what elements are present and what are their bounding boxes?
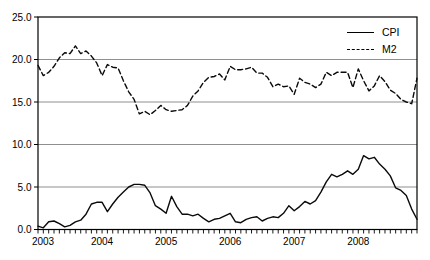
x-axis-label: 2005	[155, 236, 178, 247]
chart-legend: CPI M2	[347, 26, 404, 56]
m2-line	[38, 46, 417, 115]
x-axis-label: 2008	[347, 236, 370, 247]
cpi-line-sample-icon	[347, 32, 374, 33]
legend-m2-label: M2	[382, 43, 404, 56]
x-axis-label: 2007	[283, 236, 306, 247]
cpi-line	[38, 156, 417, 228]
y-axis-label: 10.0	[12, 139, 32, 150]
legend-item-m2: M2	[347, 43, 404, 56]
x-axis-label: 2003	[32, 236, 55, 247]
m2-dashed-line-sample-icon	[347, 49, 374, 50]
x-axis-label: 2006	[219, 236, 242, 247]
legend-item-cpi: CPI	[347, 26, 404, 39]
y-axis-label: 0.0	[18, 224, 32, 235]
y-axis-label: 15.0	[12, 97, 32, 108]
y-axis-label: 20.0	[12, 54, 32, 65]
cpi-m2-line-chart: 0.05.010.015.020.025.0200320042005200620…	[0, 0, 430, 260]
legend-cpi-label: CPI	[382, 26, 404, 39]
y-axis-label: 25.0	[12, 12, 32, 23]
x-axis-label: 2004	[91, 236, 114, 247]
y-axis-label: 5.0	[18, 182, 32, 193]
